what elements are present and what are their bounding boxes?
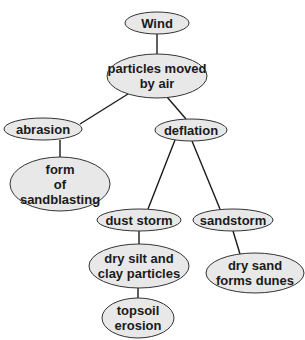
node-dust-storm: dust storm — [97, 209, 181, 231]
edge-particles-abrasion — [80, 94, 128, 124]
nodes: Windparticles movedby airabrasiondeflati… — [4, 12, 304, 338]
node-label: clay particles — [98, 266, 180, 281]
node-particles: particles movedby air — [107, 54, 207, 98]
node-label: deflation — [164, 123, 218, 138]
node-label: dust storm — [105, 213, 172, 228]
edge-sandstorm-dunes — [233, 231, 240, 254]
node-label: forms dunes — [216, 273, 294, 288]
node-label: form — [46, 162, 75, 177]
node-sandstorm: sandstorm — [193, 209, 273, 231]
edge-deflation-dust_storm — [148, 140, 175, 209]
node-dunes: dry sandforms dunes — [206, 253, 304, 293]
edge-deflation-sandstorm — [192, 141, 220, 209]
node-label: sandblasting — [20, 192, 100, 207]
node-silt: dry silt andclay particles — [89, 244, 189, 288]
node-label: particles moved — [108, 61, 207, 76]
node-label: by air — [140, 76, 175, 91]
node-label: Wind — [141, 16, 173, 31]
edge-particles-deflation — [167, 97, 186, 119]
node-label: of — [54, 177, 67, 192]
node-topsoil: topsoilerosion — [102, 298, 174, 338]
node-label: dry sand — [228, 258, 282, 273]
node-deflation: deflation — [155, 119, 227, 141]
node-wind: Wind — [125, 12, 189, 34]
node-label: dry silt and — [104, 251, 173, 266]
node-abrasion: abrasion — [4, 118, 82, 140]
node-label: abrasion — [16, 122, 70, 137]
node-sandblasting: formofsandblasting — [10, 157, 110, 211]
node-label: erosion — [115, 318, 162, 333]
node-label: topsoil — [117, 303, 160, 318]
concept-map: Windparticles movedby airabrasiondeflati… — [0, 0, 305, 340]
node-label: sandstorm — [200, 213, 266, 228]
